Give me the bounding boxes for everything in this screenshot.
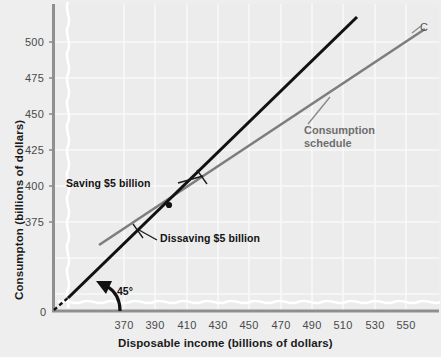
consumption-schedule-chart: 500 475 450 425 400 375 0 370 390 410 43… <box>0 0 441 357</box>
x-tick-label-370: 370 <box>109 319 139 331</box>
plot-background <box>53 4 439 311</box>
origin-label: 0 <box>40 306 46 318</box>
x-tick-label-530: 530 <box>360 319 390 331</box>
x-axis-title: Disposable income (billions of dollars) <box>118 337 333 349</box>
y-tick-label-500: 500 <box>14 36 44 48</box>
y-tick-label-450: 450 <box>14 108 44 120</box>
x-tick-label-510: 510 <box>328 319 358 331</box>
x-tick-label-470: 470 <box>266 319 296 331</box>
break-even-point-marker <box>166 202 172 208</box>
saving-annotation: Saving $5 billion <box>66 177 151 189</box>
x-tick-label-390: 390 <box>140 319 170 331</box>
curve-c-label: C <box>420 21 428 33</box>
x-tick-label-450: 450 <box>234 319 264 331</box>
consumption-schedule-label-line2: schedule <box>304 137 352 149</box>
x-tick-label-430: 430 <box>203 319 233 331</box>
x-tick-label-490: 490 <box>297 319 327 331</box>
forty-five-degree-label: 45° <box>117 285 133 297</box>
dissaving-annotation: Dissaving $5 billion <box>160 232 260 244</box>
x-tick-label-410: 410 <box>172 319 202 331</box>
consumption-schedule-label-line1: Consumption <box>304 124 375 136</box>
x-tick-label-550: 550 <box>391 319 421 331</box>
y-tick-label-475: 475 <box>14 72 44 84</box>
y-axis-title: Consumpton (billions of dollars) <box>13 120 25 300</box>
